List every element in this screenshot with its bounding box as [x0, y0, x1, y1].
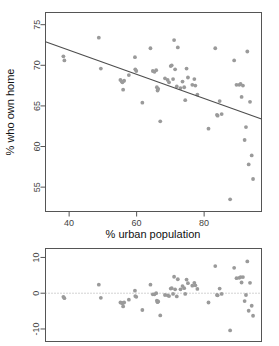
residual-data-point: [241, 275, 245, 279]
residual-data-point: [154, 291, 158, 295]
data-point: [185, 67, 189, 71]
residual-data-point: [220, 292, 224, 296]
data-point: [173, 67, 177, 71]
data-point: [248, 100, 252, 104]
residual-data-point: [250, 304, 254, 308]
data-point: [170, 63, 174, 67]
residual-data-point: [251, 314, 255, 318]
residual-data-point: [185, 278, 189, 282]
residual-data-point: [149, 283, 153, 287]
residual-data-point: [63, 296, 67, 300]
residual-data-point: [232, 266, 236, 270]
data-point: [207, 127, 211, 131]
data-point: [182, 85, 186, 89]
residual-y-tick-label: 10: [31, 252, 41, 262]
data-point: [154, 68, 158, 72]
data-point: [240, 95, 244, 99]
residual-data-point: [186, 281, 190, 285]
data-point: [186, 76, 190, 80]
residual-data-points: [61, 259, 254, 332]
residual-data-point: [179, 287, 183, 291]
residual-data-point: [244, 293, 248, 297]
data-point: [181, 80, 185, 84]
residual-data-point: [243, 299, 247, 303]
y-tick-label: 60: [32, 142, 42, 152]
data-point: [245, 50, 249, 54]
residual-data-point: [170, 286, 174, 290]
x-tick-label: 60: [132, 218, 142, 228]
data-point: [176, 46, 180, 50]
residual-data-point: [121, 305, 125, 309]
residual-data-point: [213, 264, 217, 268]
data-point: [127, 73, 131, 77]
data-point: [244, 125, 248, 129]
data-point: [97, 36, 101, 40]
scatter-x-axis-label: % urban population: [106, 228, 201, 240]
data-point: [183, 98, 187, 102]
data-point: [171, 77, 175, 81]
residual-data-point: [247, 309, 251, 313]
residual-data-point: [195, 287, 199, 291]
data-point: [213, 46, 217, 50]
y-tick-label: 75: [32, 20, 42, 30]
residual-data-point: [218, 287, 222, 291]
data-point: [121, 88, 125, 92]
residual-data-point: [122, 301, 126, 305]
data-point: [167, 80, 171, 84]
residual-data-point: [175, 295, 179, 299]
data-point: [250, 154, 254, 158]
scatter-y-axis-label: % who own home: [4, 69, 16, 156]
data-point: [193, 84, 197, 88]
scatter-plot-frame: [46, 13, 262, 212]
residual-data-point: [156, 300, 160, 304]
data-point: [241, 84, 245, 88]
residual-data-point: [245, 259, 249, 263]
residual-data-point: [228, 329, 232, 333]
regression-fit-line: [46, 42, 262, 119]
residual-data-point: [248, 281, 252, 285]
residual-data-point: [173, 287, 177, 291]
residual-data-point: [176, 277, 180, 281]
x-tick-label: 40: [64, 218, 74, 228]
data-point: [61, 54, 65, 58]
residual-data-point: [99, 296, 103, 300]
scatter-data-points: [61, 36, 254, 201]
scatter-panel: 5560657075 406080 % urban population % w…: [4, 13, 262, 241]
data-point: [216, 114, 220, 118]
residual-data-point: [216, 293, 220, 297]
residual-data-point: [207, 301, 211, 305]
data-point: [247, 162, 251, 166]
residual-data-point: [167, 294, 171, 298]
residual-data-point: [182, 286, 186, 290]
residual-data-point: [183, 292, 187, 296]
data-point: [140, 101, 144, 105]
residual-data-point: [240, 281, 244, 285]
residual-data-point: [158, 313, 162, 317]
residual-y-tick-label: 0: [31, 291, 41, 296]
data-point: [63, 59, 67, 63]
data-point: [243, 138, 247, 142]
residual-data-point: [193, 283, 197, 287]
residual-panel: -10010: [31, 249, 262, 342]
data-point: [149, 46, 153, 50]
x-tick-label: 80: [199, 218, 209, 228]
data-point: [122, 79, 126, 83]
y-tick-label: 65: [32, 101, 42, 111]
data-point: [99, 67, 103, 71]
residual-data-point: [172, 275, 176, 279]
y-tick-label: 70: [32, 60, 42, 70]
data-point: [172, 38, 176, 42]
residual-data-point: [133, 289, 137, 293]
data-point: [228, 197, 232, 201]
scatter-x-axis-ticks: 406080: [64, 212, 209, 229]
residual-data-point: [140, 308, 144, 312]
residual-data-point: [171, 292, 175, 296]
scatter-y-axis-ticks: 5560657075: [32, 20, 46, 192]
regression-figure: 5560657075 406080 % urban population % w…: [0, 0, 279, 346]
residual-y-axis-ticks: -10010: [31, 252, 46, 335]
data-point: [158, 119, 162, 123]
y-tick-label: 55: [32, 182, 42, 192]
residual-data-point: [134, 295, 138, 299]
data-point: [192, 77, 196, 81]
residual-data-point: [127, 298, 131, 302]
